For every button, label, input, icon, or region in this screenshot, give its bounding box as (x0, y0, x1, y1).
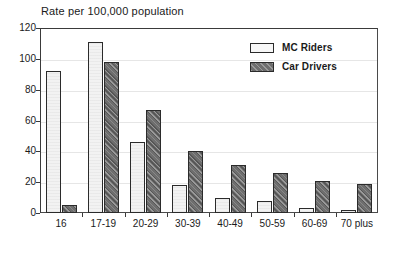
legend-item: MC Riders (250, 40, 337, 56)
legend-label: MC Riders (282, 43, 332, 53)
x-tick-label: 70 plus (336, 218, 378, 230)
x-tick-label: 20-29 (125, 218, 167, 230)
bar-group (82, 28, 124, 213)
bar (62, 205, 77, 213)
bar-group (167, 28, 209, 213)
x-tick-mark (82, 213, 83, 217)
y-tick-label: 80 (2, 85, 36, 95)
legend-swatch-icon (250, 43, 274, 53)
bar (215, 198, 230, 213)
bar (172, 185, 187, 213)
x-tick-mark (336, 213, 337, 217)
bar-group (40, 28, 82, 213)
bar-chart: Rate per 100,000 population 020406080100… (0, 0, 397, 260)
y-tick-label: 60 (2, 116, 36, 126)
y-tick-label: 120 (2, 23, 36, 33)
x-tick-label: 40-49 (209, 218, 251, 230)
bar-group (125, 28, 167, 213)
x-axis: 1617-1920-2930-3940-4950-5960-6970 plus (40, 218, 378, 236)
bar (188, 151, 203, 213)
x-tick-mark (209, 213, 210, 217)
x-tick-label: 17-19 (82, 218, 124, 230)
chart-legend: MC RidersCar Drivers (250, 40, 337, 78)
bar (299, 208, 314, 213)
bar (146, 110, 161, 213)
bar (315, 181, 330, 213)
x-tick-label: 50-59 (251, 218, 293, 230)
bar (130, 142, 145, 213)
bar (231, 165, 246, 213)
y-tick-label: 100 (2, 54, 36, 64)
bar (104, 62, 119, 213)
x-tick-label: 16 (40, 218, 82, 230)
bar-group (336, 28, 378, 213)
y-tick-label: 40 (2, 146, 36, 156)
x-tick-mark (251, 213, 252, 217)
x-tick-mark (167, 213, 168, 217)
x-tick-mark (125, 213, 126, 217)
bar (46, 71, 61, 213)
legend-item: Car Drivers (250, 59, 337, 75)
bar (341, 210, 356, 213)
x-tick-mark (294, 213, 295, 217)
x-tick-label: 30-39 (167, 218, 209, 230)
bar (357, 184, 372, 213)
legend-label: Car Drivers (282, 62, 337, 72)
legend-swatch-icon (250, 62, 274, 72)
bar (257, 201, 272, 213)
chart-title: Rate per 100,000 population (41, 5, 184, 17)
y-tick-label: 0 (2, 208, 36, 218)
bar-group (209, 28, 251, 213)
y-tick-label: 20 (2, 177, 36, 187)
y-tick-mark (36, 213, 40, 214)
x-tick-label: 60-69 (294, 218, 336, 230)
bar (88, 42, 103, 213)
y-axis: 020406080100120 (0, 28, 36, 213)
bar (273, 173, 288, 213)
